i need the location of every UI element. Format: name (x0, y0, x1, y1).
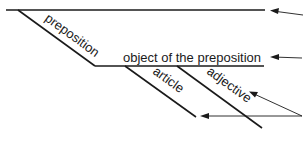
object-label: object of the preposition (123, 50, 261, 65)
sentence-diagram: preposition object of the preposition ar… (0, 0, 308, 151)
arrow-to-article-icon (200, 113, 302, 119)
adjective-label: adjective (204, 63, 254, 105)
article-label: article (150, 63, 187, 96)
arrow-to-adjective-icon (249, 92, 302, 117)
arrow-to-object-icon (270, 54, 302, 60)
arrow-to-baseline-icon (270, 8, 303, 15)
